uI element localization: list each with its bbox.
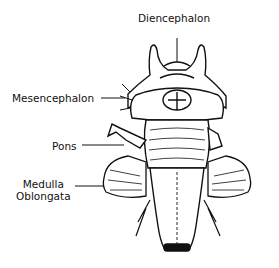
label-diencephalon: Diencephalon <box>138 12 210 24</box>
brainstem-illustration <box>0 0 279 268</box>
label-medulla-oblongata: Medulla Oblongata <box>16 178 71 202</box>
label-medulla-line2: Oblongata <box>16 190 71 202</box>
label-medulla-line1: Medulla <box>16 178 71 190</box>
label-pons: Pons <box>52 140 77 152</box>
label-mesencephalon: Mesencephalon <box>12 92 94 104</box>
